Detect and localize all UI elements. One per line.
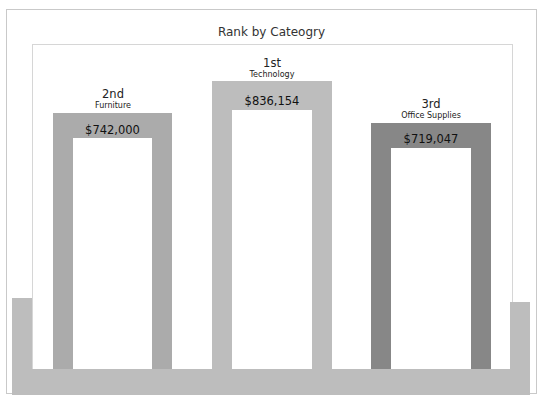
rank-text: 1st xyxy=(212,57,332,70)
rank-text: 3rd xyxy=(371,98,491,111)
podium-base-right-wing xyxy=(510,302,530,369)
value-label: $719,047 xyxy=(371,132,491,146)
podium-cutout xyxy=(73,138,152,370)
podium-bar-furniture: $742,000 xyxy=(53,113,172,370)
podium-cutout xyxy=(232,110,312,370)
podium-bar-technology: $836,154 xyxy=(212,81,332,370)
value-label: $742,000 xyxy=(53,123,172,137)
rank-text: 2nd xyxy=(53,88,173,101)
chart-title: Rank by Cateogry xyxy=(0,25,543,39)
podium-base xyxy=(12,369,530,395)
podium-base-left-wing xyxy=(12,298,32,369)
rank-label-furniture: 2nd Furniture xyxy=(53,88,173,111)
category-text: Technology xyxy=(212,70,332,80)
podium-bar-office-supplies: $719,047 xyxy=(371,123,491,370)
podium-cutout xyxy=(391,148,471,370)
rank-label-office-supplies: 3rd Office Supplies xyxy=(371,98,491,121)
category-text: Office Supplies xyxy=(371,111,491,121)
category-text: Furniture xyxy=(53,101,173,111)
value-label: $836,154 xyxy=(212,94,332,108)
rank-label-technology: 1st Technology xyxy=(212,57,332,80)
